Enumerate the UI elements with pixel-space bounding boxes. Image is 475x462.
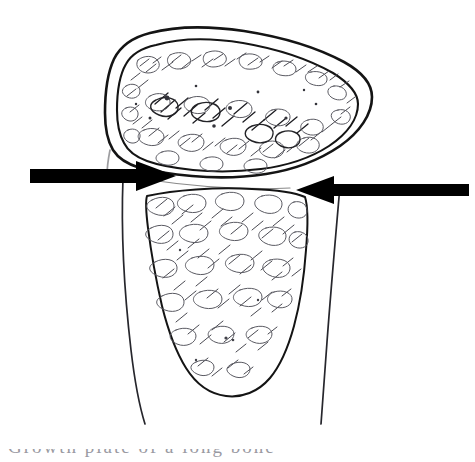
growth-plate [150, 180, 290, 189]
caption-text: Growth plate of a long bone [8, 449, 276, 458]
right-arrow-marker [296, 176, 469, 204]
caption-strip: Growth plate of a long bone [0, 449, 475, 462]
metaphysis [146, 188, 308, 396]
bone-illustration [0, 0, 475, 462]
figure-root: Growth plate of a long bone [0, 0, 475, 462]
